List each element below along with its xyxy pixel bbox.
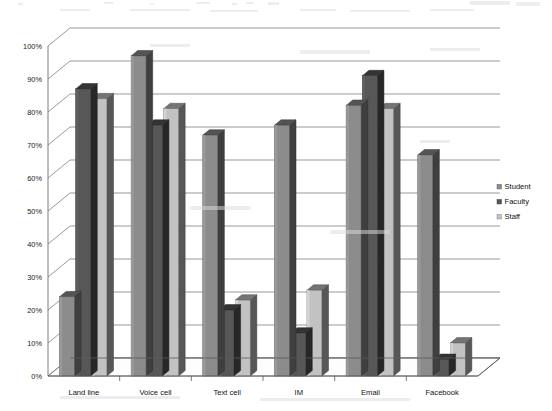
- y-axis-tick-label: 70%: [27, 141, 42, 150]
- y-axis-tick-label: 50%: [27, 207, 42, 216]
- axis-depth-connector: [48, 259, 70, 277]
- chart-legend: StudentFacultyStaff: [497, 182, 532, 221]
- legend-item-staff[interactable]: Staff: [497, 212, 521, 221]
- x-axis-category-label: Facebook: [425, 388, 459, 397]
- legend-label-student: Student: [505, 182, 532, 191]
- y-axis-tick-label: 20%: [27, 306, 42, 315]
- bar-student-land-line: [59, 291, 81, 376]
- axis-depth-connector: [48, 127, 70, 145]
- legend-item-student[interactable]: Student: [497, 182, 532, 191]
- x-axis-category-label: Email: [361, 388, 380, 397]
- axis-depth-connector: [48, 160, 70, 178]
- bar-chart: 0%10%20%30%40%50%60%70%80%90%100% Land l…: [0, 0, 552, 411]
- legend-swatch-faculty: [497, 199, 502, 204]
- y-axis-tick-label: 80%: [27, 108, 42, 117]
- bar-student-facebook: [418, 150, 440, 377]
- x-axis-category-label: Land line: [68, 388, 99, 397]
- bar-student-email: [346, 100, 368, 376]
- x-axis-category-label: Text cell: [213, 388, 241, 397]
- bars-group: [59, 51, 471, 377]
- bar-student-voice-cell: [131, 51, 153, 377]
- axis-depth-connector: [48, 61, 70, 79]
- y-axis-tick-label: 90%: [27, 75, 42, 84]
- x-axis-category-labels: Land lineVoice cellText cellIMEmailFaceb…: [68, 388, 459, 397]
- y-axis-tick-labels: 0%10%20%30%40%50%60%70%80%90%100%: [23, 42, 42, 381]
- chart-canvas: 0%10%20%30%40%50%60%70%80%90%100% Land l…: [0, 0, 552, 411]
- y-axis-tick-label: 60%: [27, 174, 42, 183]
- axis-depth-connector: [48, 226, 70, 244]
- axis-depth-connector: [48, 94, 70, 112]
- axis-depth-connector: [48, 28, 70, 46]
- bar-student-text-cell: [203, 130, 225, 376]
- y-axis-tick-label: 100%: [23, 42, 42, 51]
- legend-item-faculty[interactable]: Faculty: [497, 197, 529, 206]
- legend-label-faculty: Faculty: [505, 197, 530, 206]
- legend-label-staff: Staff: [505, 212, 521, 221]
- legend-swatch-student: [497, 184, 502, 189]
- y-axis-tick-label: 40%: [27, 240, 42, 249]
- bar-student-im: [274, 120, 296, 376]
- axis-depth-connector: [48, 193, 70, 211]
- y-axis-tick-label: 0%: [31, 372, 42, 381]
- x-axis-category-label: IM: [295, 388, 303, 397]
- y-axis-tick-label: 30%: [27, 273, 42, 282]
- legend-swatch-staff: [497, 214, 502, 219]
- y-axis-tick-label: 10%: [27, 339, 42, 348]
- x-axis-category-label: Voice cell: [139, 388, 171, 397]
